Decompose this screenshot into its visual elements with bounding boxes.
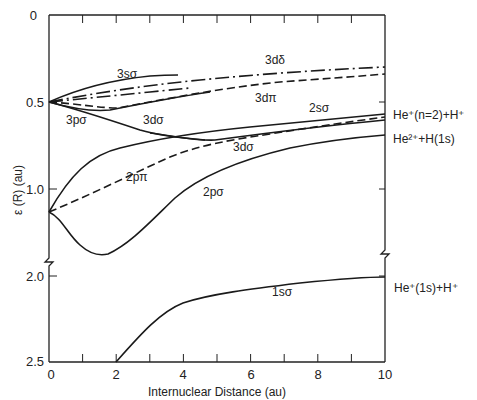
x-tick-0: 0 [47, 367, 54, 382]
curve-3d-delta-2 [49, 88, 190, 102]
label-3d-sigma-upper: 3dσ [143, 113, 164, 127]
curve-1s-sigma [116, 277, 385, 362]
label-3p-sigma: 3pσ [66, 113, 87, 127]
label-1s-sigma: 1sσ [272, 285, 293, 299]
label-2s-sigma: 2sσ [309, 101, 330, 115]
asymptote-he-n2-h: He⁺(n=2)+H⁺ [393, 108, 464, 122]
y-axis-label: ε (R) (au) [11, 165, 25, 215]
x-tick-2: 2 [112, 367, 119, 382]
y-tick-2.5: 2.5 [26, 354, 44, 369]
y-tick-0: 0 [30, 8, 37, 23]
label-3d-pi: 3dπ [255, 91, 277, 105]
curve-3d-sigma-lower [150, 120, 385, 140]
x-tick-10: 10 [378, 367, 392, 382]
asymptote-he1s-h: He⁺(1s)+H⁺ [394, 281, 458, 295]
potential-energy-chart: 0 0.5 1.0 2.0 2.5 0 2 4 6 8 10 Internucl… [0, 0, 477, 400]
asymptote-he2-h1s: He²⁺+H(1s) [393, 132, 455, 146]
y-tick-2.0: 2.0 [26, 269, 44, 284]
label-3d-sigma-lower: 3dσ [233, 140, 254, 154]
x-tick-4: 4 [179, 367, 186, 382]
label-2p-sigma: 2pσ [203, 185, 224, 199]
label-2p-pi: 2pπ [126, 170, 148, 184]
x-axis-label: Internuclear Distance (au) [148, 385, 286, 399]
x-tick-6: 6 [247, 367, 254, 382]
x-tick-8: 8 [314, 367, 321, 382]
curves [49, 67, 385, 362]
label-3d-delta: 3dδ [265, 53, 285, 67]
y-tick-0.5: 0.5 [26, 95, 44, 110]
y-tick-1.0: 1.0 [26, 182, 44, 197]
label-3s-sigma: 3sσ [117, 67, 138, 81]
